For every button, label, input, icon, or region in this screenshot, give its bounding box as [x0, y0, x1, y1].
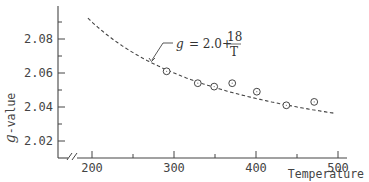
equation-numerator: 18 — [227, 30, 242, 44]
y-tick-label: 2.04 — [24, 100, 53, 114]
y-axis-symbol: g — [2, 134, 18, 143]
axes — [58, 6, 347, 160]
data-points — [163, 68, 317, 109]
svg-text:g-value: g-value — [2, 93, 18, 144]
tick-labels: 2.022.042.062.08200300400500 — [24, 32, 349, 175]
x-tick-label: 400 — [245, 161, 267, 175]
data-point-center — [197, 83, 198, 84]
axis-break-mark — [67, 153, 72, 160]
fit-curve-line — [88, 18, 334, 113]
y-tick-label: 2.08 — [24, 32, 53, 46]
x-tick-label: 200 — [81, 161, 103, 175]
x-axis-title: Temperature — [288, 167, 364, 181]
data-point-center — [166, 71, 167, 72]
equation-main: = 2.0+ — [189, 37, 232, 51]
equation-denominator: T — [230, 45, 238, 59]
data-point-center — [256, 91, 257, 92]
equation-annotation: g = 2.0+ 18 T — [149, 30, 242, 62]
y-axis-label: -value — [4, 93, 18, 135]
data-point-center — [286, 105, 287, 106]
y-tick-label: 2.02 — [24, 134, 53, 148]
equation-symbol: g — [176, 37, 184, 51]
fit-curve — [88, 18, 334, 113]
g-value-vs-temperature-chart: 2.022.042.062.08200300400500 g-value Tem… — [0, 0, 369, 182]
data-point-center — [214, 86, 215, 87]
y-tick-label: 2.06 — [24, 66, 53, 80]
x-tick-label: 300 — [163, 161, 185, 175]
axis-break-mark — [72, 153, 77, 160]
data-point-center — [314, 101, 315, 102]
y-axis-title: g-value — [2, 93, 18, 144]
data-point-center — [232, 83, 233, 84]
